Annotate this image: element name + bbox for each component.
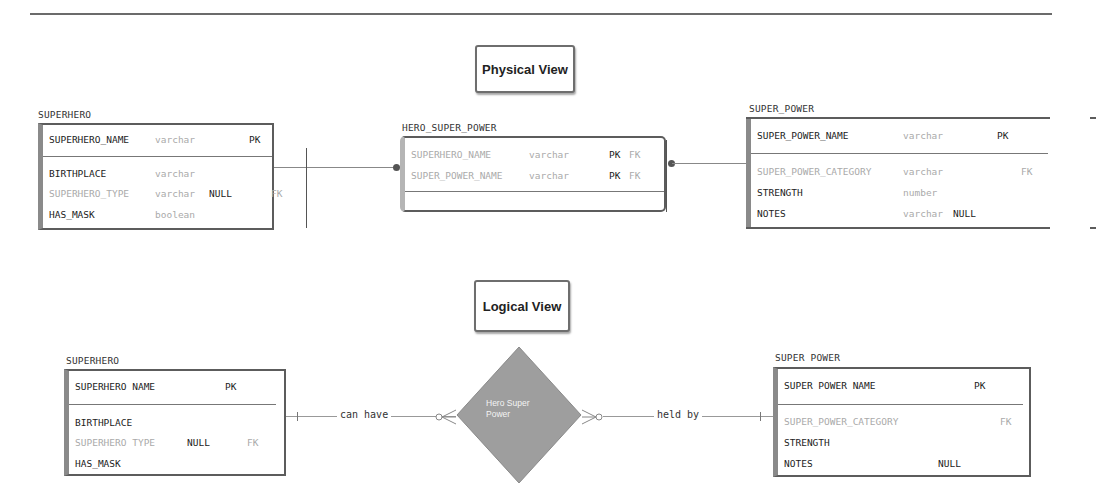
relationship-label-can-have: can have (337, 409, 391, 420)
column-name: SUPER_POWER_CATEGORY (757, 165, 871, 179)
relationship-name-line2: Power (486, 409, 529, 420)
column-name: STRENGTH (784, 436, 830, 450)
column-type: varchar (903, 129, 943, 143)
entity-title-super-power-logical: SUPER POWER (775, 352, 840, 363)
column-type: number (903, 186, 937, 200)
logical-view-label: Logical View (474, 280, 570, 332)
connector-line (672, 163, 747, 164)
fk-badge: FK (629, 169, 640, 183)
entity-superhero-logical[interactable]: SUPERHERO NAME PK BIRTHPLACE SUPERHERO T… (64, 369, 286, 476)
crowfoot-many-optional-icon (432, 409, 456, 425)
column-name: SUPER_POWER_CATEGORY (784, 415, 898, 429)
column-type: varchar (903, 207, 943, 221)
column-name: SUPER_POWER_NAME (411, 169, 503, 183)
column-type: varchar (529, 148, 569, 162)
column-type: varchar (903, 165, 943, 179)
column-name: SUPER_POWER_NAME (757, 129, 849, 143)
column-type: boolean (155, 208, 195, 222)
pk-badge: PK (997, 129, 1008, 143)
entity-title-super-power-physical: SUPER_POWER (749, 103, 814, 114)
column-name: SUPERHERO_NAME (49, 133, 129, 147)
key-separator (778, 404, 1023, 405)
connector-dot (393, 164, 400, 171)
connector-line (274, 167, 396, 168)
column-name: SUPERHERO NAME (75, 380, 155, 394)
column-name: SUPERHERO_TYPE (49, 187, 129, 201)
key-separator (405, 191, 664, 192)
one-mandatory-tick (760, 412, 761, 421)
column-name: HAS_MASK (49, 208, 95, 222)
relationship-name: Hero Super Power (486, 398, 529, 420)
column-name: SUPERHERO_NAME (411, 148, 491, 162)
entity-super-power-physical[interactable]: SUPER_POWER_NAME varchar PK SUPER_POWER_… (746, 117, 1096, 229)
column-type: varchar (155, 167, 195, 181)
entity-superhero-physical[interactable]: SUPERHERO_NAME varchar PK BIRTHPLACE var… (38, 123, 274, 230)
null-badge: NULL (953, 207, 976, 221)
relationship-name-line1: Hero Super (486, 398, 529, 409)
null-badge: NULL (187, 436, 210, 450)
entity-bottom-border (746, 227, 1050, 229)
column-type: varchar (155, 187, 195, 201)
column-name: NOTES (757, 207, 786, 221)
null-badge: NULL (209, 187, 232, 201)
column-name: SUPER POWER NAME (784, 379, 876, 393)
pk-badge: PK (974, 379, 985, 393)
entity-hero-super-power[interactable]: SUPERHERO_NAME varchar PK FK SUPER_POWER… (400, 136, 666, 212)
entity-super-power-logical[interactable]: SUPER POWER NAME PK SUPER_POWER_CATEGORY… (773, 367, 1031, 477)
relationship-label-held-by: held by (654, 409, 702, 420)
physical-view-text: Physical View (482, 62, 568, 77)
fk-badge: FK (247, 436, 258, 450)
pk-badge: PK (249, 133, 260, 147)
pk-badge: PK (609, 169, 620, 183)
one-mandatory-tick (297, 412, 298, 421)
key-separator (43, 156, 272, 157)
fk-badge: FK (1021, 165, 1032, 179)
entity-title-hero-super-power: HERO_SUPER_POWER (402, 122, 497, 133)
pk-badge: PK (225, 380, 236, 394)
canvas-crop-edge (1050, 100, 1090, 240)
connector-vertical (306, 148, 307, 228)
column-type: varchar (155, 133, 195, 147)
entity-top-border (746, 117, 1050, 119)
crowfoot-many-optional-icon (582, 409, 606, 425)
column-name: NOTES (784, 457, 813, 471)
connector-vertical (666, 140, 667, 212)
column-type: varchar (529, 169, 569, 183)
key-separator (751, 153, 1048, 154)
fk-badge: FK (271, 187, 282, 201)
null-badge: NULL (938, 457, 961, 471)
column-name: SUPERHERO TYPE (75, 436, 155, 450)
column-name: HAS_MASK (75, 457, 121, 471)
column-name: STRENGTH (757, 186, 803, 200)
key-separator (69, 404, 276, 405)
column-name: BIRTHPLACE (49, 167, 106, 181)
fk-badge: FK (1000, 415, 1011, 429)
top-divider (30, 13, 1052, 15)
entity-title-superhero-logical: SUPERHERO (66, 355, 119, 366)
physical-view-label: Physical View (475, 45, 575, 93)
pk-badge: PK (609, 148, 620, 162)
entity-title-superhero-physical: SUPERHERO (38, 109, 91, 120)
logical-view-text: Logical View (483, 299, 562, 314)
column-name: BIRTHPLACE (75, 416, 132, 430)
fk-badge: FK (629, 148, 640, 162)
